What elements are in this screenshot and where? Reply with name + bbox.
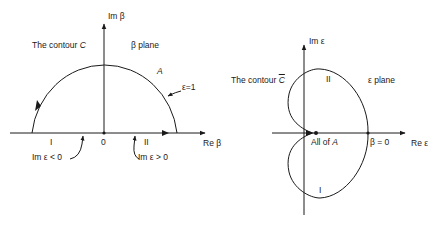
all-of-a-dot xyxy=(314,131,318,135)
right-contour-label-symbol: C xyxy=(279,75,285,85)
region-i-label-right: I xyxy=(319,186,321,195)
left-contour-label-prefix: The contour xyxy=(32,40,80,50)
epsilon-pointer-arrow-icon xyxy=(168,91,181,96)
diagram-canvas xyxy=(0,0,436,228)
re-epsilon-axis-label: Re ε xyxy=(411,139,428,148)
segment-direction-arrow-icon xyxy=(162,130,169,136)
right-contour-label: The contour C xyxy=(231,76,285,85)
beta-zero-dot xyxy=(366,131,369,134)
beta-zero-label: β = 0 xyxy=(370,138,389,147)
all-of-a-label: All of A xyxy=(311,138,338,147)
origin-label: 0 xyxy=(101,138,106,147)
im-eps-neg-label: Im ε < 0 xyxy=(32,153,62,162)
im-eps-pos-label: Im ε > 0 xyxy=(138,153,168,162)
im-beta-axis-label: Im β xyxy=(108,12,125,21)
epsilon-equals-one-label: ε=1 xyxy=(182,83,195,92)
epsilon-plane-label: ε plane xyxy=(368,76,395,85)
left-contour-label: The contour C xyxy=(32,41,86,50)
arc-a-label: A xyxy=(157,67,163,76)
region-i-label-left: I xyxy=(50,138,52,147)
origin-dot xyxy=(102,131,105,134)
cusp-arrow-icon xyxy=(306,130,314,136)
right-contour-label-prefix: The contour xyxy=(231,75,279,85)
re-beta-axis-label: Re β xyxy=(203,139,221,148)
left-contour-label-symbol: C xyxy=(80,40,86,50)
all-of-a-symbol: A xyxy=(332,137,338,147)
right-epsilon-plane xyxy=(272,45,405,215)
region-ii-label-right: II xyxy=(326,75,331,84)
beta-plane-label: β plane xyxy=(131,41,159,50)
region-ii-label-left: II xyxy=(144,138,149,147)
im-epsilon-axis-label: Im ε xyxy=(309,37,325,46)
all-of-a-prefix: All of xyxy=(311,137,332,147)
im-eps-neg-pointer-arrow-icon xyxy=(70,136,83,159)
